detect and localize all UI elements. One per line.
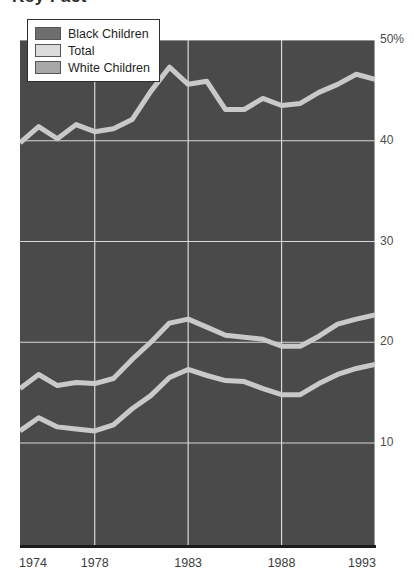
y-axis-tick-label: 40 <box>380 134 393 146</box>
legend-item-label: Total <box>68 44 94 58</box>
legend-swatch-icon <box>35 27 61 40</box>
y-axis-tick-label: 30 <box>380 235 393 247</box>
chart-plot-area <box>20 40 375 546</box>
legend-item-label: White Children <box>68 61 150 75</box>
y-axis-tick-label: 20 <box>380 335 393 347</box>
x-axis-tick-label: 1983 <box>174 556 202 570</box>
chart-legend: Black ChildrenTotalWhite Children <box>27 19 160 82</box>
legend-item: White Children <box>35 59 150 76</box>
legend-item-label: Black Children <box>68 27 149 41</box>
series-svg <box>20 40 375 546</box>
y-axis-tick-label: 50% <box>380 33 404 45</box>
legend-swatch-icon <box>35 61 61 74</box>
series-group <box>20 67 375 431</box>
x-axis-tick-label: 1988 <box>268 556 296 570</box>
x-axis-line <box>20 545 376 548</box>
series-line-total <box>20 315 375 389</box>
page-title: Key Fact <box>12 0 87 5</box>
legend-swatch-icon <box>35 44 61 57</box>
x-axis-tick-label: 1978 <box>81 556 109 570</box>
legend-item: Black Children <box>35 25 150 42</box>
x-axis-tick-label: 1974 <box>19 556 47 570</box>
series-line-white-children <box>20 364 375 431</box>
y-axis-tick-label: 10 <box>380 436 393 448</box>
x-axis-tick-label: 1993 <box>348 556 376 570</box>
legend-item: Total <box>35 42 150 59</box>
